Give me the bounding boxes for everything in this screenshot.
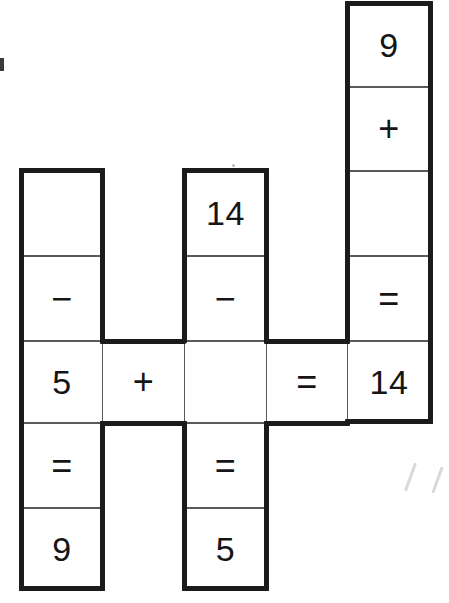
puzzle-grid: − 5 = 9 + 14 − = 5 = 9 + = 14: [0, 0, 449, 603]
cell-value: =: [296, 364, 318, 400]
puzzle-cell-d3[interactable]: =: [266, 341, 348, 423]
cell-value: 14: [370, 365, 409, 399]
puzzle-cell-c3[interactable]: [184, 341, 267, 423]
cell-value: =: [51, 448, 73, 484]
outline-col-e-bottom: [345, 419, 433, 424]
puzzle-cell-e0[interactable]: 9: [347, 3, 431, 87]
outline-row3-top-d: [264, 339, 350, 344]
outline-col-e-top: [345, 1, 433, 6]
outline-col-a-bottom: [19, 586, 105, 591]
puzzle-cell-a4[interactable]: =: [21, 423, 103, 508]
outline-col-c-right-upper: [264, 168, 269, 343]
puzzle-cell-e4[interactable]: 14: [347, 341, 431, 423]
cell-value: +: [133, 364, 155, 400]
scan-speck-left-edge: [0, 58, 4, 71]
outline-row3-bottom-b: [100, 421, 186, 426]
outline-col-c-bottom: [182, 586, 269, 591]
pencil-stroke-2: [431, 466, 443, 493]
cell-value: 5: [52, 365, 71, 399]
cell-value: 9: [379, 28, 398, 62]
outline-col-e-left-upper: [345, 1, 350, 343]
puzzle-cell-e3[interactable]: =: [347, 256, 431, 341]
outline-col-a-top: [19, 168, 105, 173]
outline-col-c-top: [182, 168, 269, 173]
pencil-stroke-1: [404, 462, 417, 491]
outline-col-a-left: [19, 168, 24, 591]
scan-speck-top: [232, 164, 235, 167]
cell-value: −: [51, 281, 73, 317]
outline-col-c-left-lower: [182, 421, 187, 591]
puzzle-cell-c4[interactable]: =: [184, 423, 267, 508]
outline-col-a-right-upper: [100, 168, 105, 343]
outline-col-c-right-lower: [264, 421, 269, 591]
cell-value: 5: [216, 532, 235, 566]
puzzle-cell-a1[interactable]: [21, 170, 103, 256]
puzzle-cell-c2[interactable]: −: [184, 256, 267, 341]
puzzle-cell-a3[interactable]: 5: [21, 341, 103, 423]
cell-value: 14: [206, 196, 245, 230]
cell-value: 9: [52, 532, 71, 566]
puzzle-cell-e2[interactable]: [347, 171, 431, 256]
cell-value: =: [378, 281, 400, 317]
puzzle-cell-c1[interactable]: 14: [184, 170, 267, 256]
outline-row3-top-b: [100, 339, 186, 344]
puzzle-cell-a2[interactable]: −: [21, 256, 103, 341]
cell-value: −: [215, 281, 237, 317]
puzzle-cell-a5[interactable]: 9: [21, 508, 103, 589]
puzzle-cell-e1[interactable]: +: [347, 87, 431, 171]
cell-value: +: [378, 111, 400, 147]
outline-col-c-left-upper: [182, 168, 187, 343]
puzzle-cell-b3[interactable]: +: [102, 341, 185, 423]
puzzle-cell-c5[interactable]: 5: [184, 508, 267, 589]
cell-value: =: [215, 448, 237, 484]
outline-col-e-right: [428, 1, 433, 424]
outline-col-a-right-lower: [100, 421, 105, 591]
outline-row3-bottom-d: [264, 421, 350, 426]
